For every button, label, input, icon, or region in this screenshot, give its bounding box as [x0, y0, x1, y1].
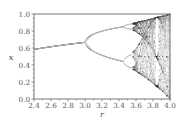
x-axis-ticks: 2.42.62.83.03.23.43.63.84.0 [28, 99, 176, 110]
x-tick-label: 2.6 [45, 101, 57, 110]
x-tick-label: 3.6 [130, 101, 142, 110]
y-tick-label: 0.4 [19, 61, 31, 70]
y-tick-label: 0.0 [19, 95, 31, 104]
y-axis-ticks: 0.00.20.40.60.81.0 [19, 10, 34, 104]
y-axis-label: x [9, 53, 14, 62]
x-tick-label: 2.8 [62, 101, 74, 110]
plot-area [34, 14, 170, 99]
y-tick-label: 0.6 [19, 44, 31, 53]
y-tick-label: 1.0 [19, 10, 31, 19]
x-tick-label: 3.8 [147, 101, 159, 110]
x-tick-label: 3.4 [113, 101, 125, 110]
bifurcation-chart: 2.42.62.83.03.23.43.63.84.0 0.00.20.40.6… [0, 0, 180, 128]
x-tick-label: 3.0 [79, 101, 91, 110]
y-tick-label: 0.8 [19, 27, 31, 36]
x-tick-label: 3.2 [96, 101, 107, 110]
x-axis-label: r [100, 110, 105, 119]
y-tick-label: 0.2 [19, 78, 30, 87]
x-tick-label: 2.4 [28, 101, 40, 110]
x-tick-label: 4.0 [164, 101, 176, 110]
